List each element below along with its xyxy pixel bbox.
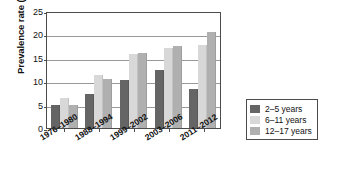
y-axis-tick-label: 20 bbox=[13, 30, 43, 40]
legend-item-label: 12–17 years bbox=[265, 126, 312, 136]
legend-item-label: 2–5 years bbox=[265, 104, 302, 114]
bar bbox=[155, 70, 164, 128]
legend-item[interactable]: 12–17 years bbox=[250, 125, 312, 136]
y-axis-tick-label: 10 bbox=[13, 77, 43, 87]
y-axis-tick-label: 5 bbox=[13, 101, 43, 111]
y-axis-tick-label: 25 bbox=[13, 7, 43, 17]
legend-item[interactable]: 2–5 years bbox=[250, 103, 312, 114]
legend-swatch bbox=[250, 116, 260, 124]
legend-item[interactable]: 6–11 years bbox=[250, 114, 312, 125]
legend: 2–5 years6–11 years12–17 years bbox=[246, 99, 318, 140]
legend-swatch bbox=[250, 127, 260, 135]
legend-swatch bbox=[250, 105, 260, 113]
y-axis-tick-label: 15 bbox=[13, 54, 43, 64]
bar-chart-figure: Prevalence rate (%) 0510152025 1976–1980… bbox=[0, 0, 344, 190]
legend-item-label: 6–11 years bbox=[265, 115, 306, 125]
